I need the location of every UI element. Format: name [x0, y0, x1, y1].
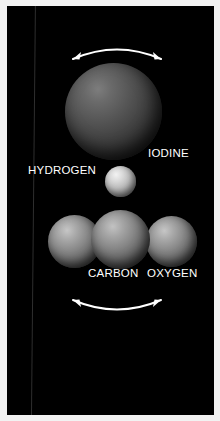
label-oxygen: OXYGEN — [147, 268, 197, 280]
molecular-diagram-scene: IODINE HYDROGEN CARBON OXYGEN — [7, 6, 214, 415]
atom-iodine-sphere — [65, 63, 162, 160]
background-seam-line — [31, 6, 36, 415]
vibration-arrow-bottom-icon — [62, 294, 172, 320]
atom-hydrogen-sphere — [105, 166, 136, 197]
label-carbon: CARBON — [88, 268, 138, 280]
label-hydrogen: HYDROGEN — [28, 165, 96, 177]
atom-carbon-sphere — [91, 210, 150, 269]
vibration-arrow-top-icon — [62, 39, 172, 65]
figure-frame: IODINE HYDROGEN CARBON OXYGEN — [0, 0, 220, 421]
label-iodine: IODINE — [148, 148, 189, 160]
atom-oxygen-right-sphere — [146, 216, 197, 267]
